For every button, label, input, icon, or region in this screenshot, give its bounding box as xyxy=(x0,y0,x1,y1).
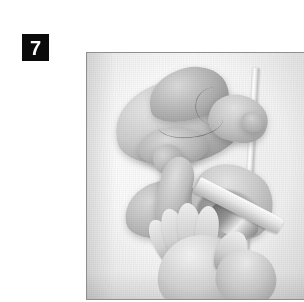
step-photo-figure xyxy=(86,52,304,300)
board-left-shadow xyxy=(87,53,115,299)
step-number-badge: 7 xyxy=(22,34,49,61)
step-number-label: 7 xyxy=(30,38,41,58)
figure-stage: 7 xyxy=(0,0,304,302)
photo-canvas xyxy=(87,53,304,299)
